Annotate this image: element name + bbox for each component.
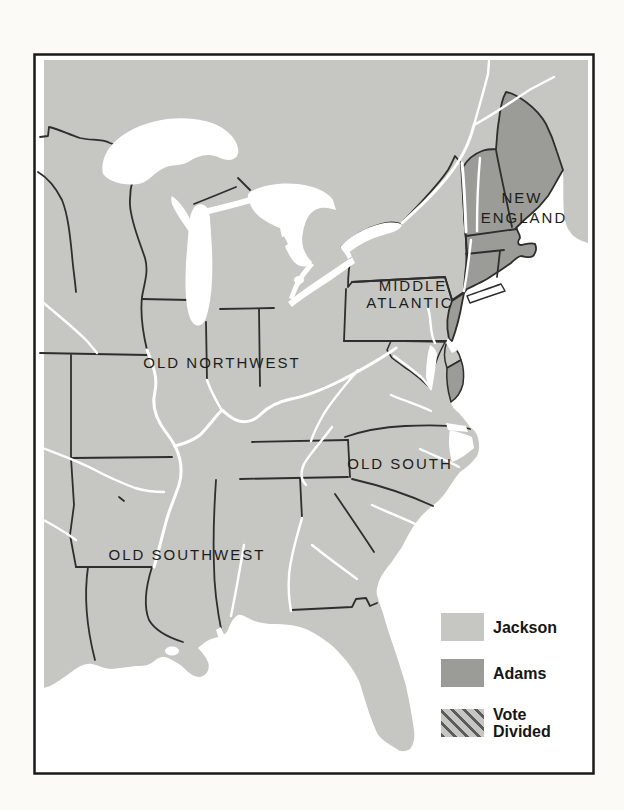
label-middle-atlantic-line2: ATLANTIC [366, 294, 453, 311]
border-illinois-indiana [206, 322, 207, 380]
legend-label-vote-divided: Vote Divided [493, 706, 551, 740]
legend-label-adams: Adams [493, 665, 546, 682]
label-new-england-line1: NEW [502, 189, 543, 206]
legend-item-jackson: Jackson [441, 613, 557, 641]
label-middle-atlantic-line1: MIDDLE [379, 277, 448, 294]
border-missouri-arkansas [71, 457, 172, 458]
label-old-south: OLD SOUTH [347, 455, 453, 472]
legend-item-adams: Adams [441, 659, 546, 687]
adams-swatch [441, 659, 484, 687]
lake-pontchartrain [165, 647, 179, 656]
border-wisconsin-illinois [142, 299, 189, 300]
border-indiana-ohio [259, 309, 260, 386]
border-michigan-indiana [220, 308, 274, 309]
election-map: NEW ENGLAND MIDDLE ATLANTIC OLD NORTHWES… [0, 0, 624, 810]
book-page: NEW ENGLAND MIDDLE ATLANTIC OLD NORTHWES… [0, 0, 624, 810]
legend-label-jackson: Jackson [493, 619, 557, 636]
legend-item-vote-divided: Vote Divided [441, 706, 551, 740]
vote-divided-swatch [441, 709, 484, 737]
label-old-southwest: OLD SOUTHWEST [109, 546, 266, 563]
jackson-swatch [441, 613, 484, 641]
label-new-england-line2: ENGLAND [481, 209, 568, 226]
label-old-northwest: OLD NORTHWEST [143, 354, 300, 371]
